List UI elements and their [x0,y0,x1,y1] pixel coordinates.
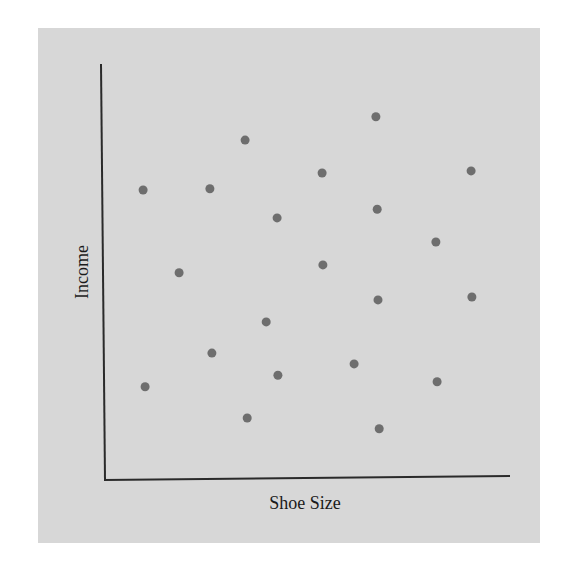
data-point [241,136,250,145]
data-point [273,371,282,380]
data-point [141,382,150,391]
y-axis [101,64,105,480]
data-point [262,317,271,326]
data-point [431,238,440,247]
data-point [467,293,476,302]
data-point [175,268,184,277]
data-point [350,359,359,368]
data-point [375,424,384,433]
data-point [318,260,327,269]
data-point [374,295,383,304]
data-point [273,213,282,222]
data-point [139,186,148,195]
data-point [373,205,382,214]
x-axis [104,476,510,480]
data-point [371,112,380,121]
y-axis-label: Income [72,245,93,299]
data-point [318,169,327,178]
data-point [467,166,476,175]
x-axis-label: Shoe Size [269,493,341,514]
data-point [433,377,442,386]
data-points [139,112,477,433]
data-point [243,414,252,423]
data-point [205,184,214,193]
data-point [207,349,216,358]
